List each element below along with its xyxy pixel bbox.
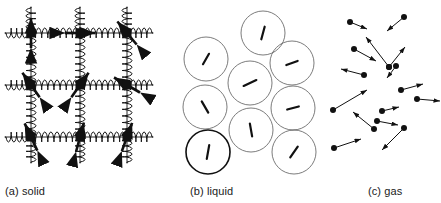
gas-velocity-arrow <box>334 139 361 148</box>
lattice-atom <box>123 29 132 38</box>
diagram-canvas <box>0 0 441 203</box>
gas-particle <box>393 63 399 69</box>
gas-velocity-arrow <box>417 99 440 101</box>
gas-particle <box>371 126 377 132</box>
liquid-motion-arrow <box>203 54 209 64</box>
gas-velocity-arrow <box>382 128 404 150</box>
liquid-motion-arrow <box>244 80 257 86</box>
liquid-motion-arrow <box>286 61 297 65</box>
gas-velocity-arrow <box>354 49 376 61</box>
lattice-atom <box>76 81 85 90</box>
panel-solid <box>5 7 153 163</box>
lattice-atom <box>27 29 36 38</box>
gas-particle <box>331 145 337 151</box>
liquid-motion-arrow <box>290 147 297 158</box>
states-of-matter-figure: (a) solid (b) liquid (c) gas <box>0 0 441 203</box>
panel-liquid <box>183 11 316 174</box>
gas-particle <box>398 87 404 93</box>
gas-velocity-arrow <box>341 69 364 75</box>
lattice-atom <box>76 29 85 38</box>
caption-gas: (c) gas <box>368 185 402 197</box>
gas-particle <box>351 46 357 52</box>
liquid-motion-arrow <box>261 27 264 40</box>
gas-particle <box>361 72 367 78</box>
gas-particle <box>330 107 336 113</box>
gas-particle <box>401 125 407 131</box>
lattice-atom <box>27 81 36 90</box>
liquid-motion-arrow <box>207 145 209 159</box>
gas-particle <box>401 14 407 20</box>
gas-particle <box>347 19 353 25</box>
lattice-atom <box>123 133 132 142</box>
gas-particle <box>386 64 392 70</box>
gas-particle <box>414 96 420 102</box>
panel-gas <box>330 14 440 151</box>
gas-velocity-arrow <box>401 84 423 90</box>
liquid-motion-arrow <box>202 101 209 112</box>
liquid-motion-arrow <box>250 124 252 137</box>
caption-solid: (a) solid <box>5 185 45 197</box>
lattice-atom <box>76 133 85 142</box>
caption-liquid: (b) liquid <box>190 185 233 197</box>
gas-velocity-arrow <box>377 121 398 125</box>
gas-velocity-arrow <box>387 17 404 31</box>
lattice-atom <box>27 133 36 142</box>
liquid-motion-arrow <box>287 106 299 109</box>
lattice-atom <box>123 81 132 90</box>
gas-velocity-arrow <box>333 90 367 110</box>
gas-particle <box>374 118 380 124</box>
gas-velocity-arrow <box>353 112 374 129</box>
gas-velocity-arrow <box>366 37 389 67</box>
gas-particle <box>379 108 385 114</box>
